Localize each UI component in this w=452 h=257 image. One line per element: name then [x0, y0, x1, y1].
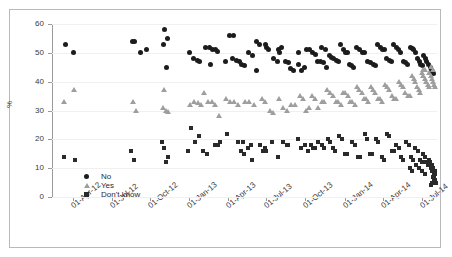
data-point — [420, 160, 424, 164]
legend-item-label: Yes — [101, 181, 114, 190]
data-point — [365, 137, 369, 141]
data-point — [417, 90, 423, 95]
data-point — [251, 102, 257, 107]
y-tick-label: 40 — [18, 78, 44, 86]
data-point — [162, 146, 166, 150]
data-point — [405, 62, 410, 67]
data-point — [292, 102, 298, 107]
data-point — [353, 143, 357, 147]
data-point — [258, 143, 262, 147]
data-point — [322, 146, 326, 150]
data-point — [73, 158, 77, 162]
data-point — [382, 158, 386, 162]
legend-item-label: No — [101, 172, 111, 181]
data-point — [71, 87, 77, 92]
data-point — [161, 42, 166, 47]
data-point — [242, 152, 246, 156]
data-point — [423, 172, 427, 176]
data-point — [410, 169, 414, 173]
data-point — [315, 105, 321, 110]
data-point — [132, 39, 137, 44]
data-point — [423, 155, 427, 159]
data-point — [323, 47, 328, 52]
data-point — [407, 143, 411, 147]
data-point — [242, 63, 247, 68]
data-point — [250, 53, 255, 58]
data-point — [412, 79, 418, 84]
data-point — [352, 102, 358, 107]
data-point — [338, 42, 343, 47]
data-point — [236, 140, 240, 144]
data-point — [275, 59, 280, 64]
data-point — [270, 110, 276, 115]
data-point — [286, 143, 290, 147]
data-point — [249, 143, 253, 147]
data-point — [401, 158, 405, 162]
data-point — [276, 96, 282, 101]
data-point — [286, 60, 291, 65]
data-point — [129, 149, 133, 153]
data-point — [250, 158, 254, 162]
data-point — [376, 140, 380, 144]
data-point — [430, 67, 436, 72]
y-tick-label: 20 — [18, 135, 44, 143]
data-point — [300, 96, 306, 101]
data-point — [223, 59, 228, 64]
data-point — [165, 36, 170, 41]
data-point — [393, 96, 399, 101]
data-point — [333, 149, 337, 153]
data-point — [306, 105, 312, 110]
square-marker-icon — [84, 192, 89, 197]
data-point — [411, 158, 415, 162]
data-point — [302, 65, 307, 70]
data-point — [235, 102, 241, 107]
data-point — [306, 149, 310, 153]
data-point — [270, 140, 274, 144]
data-point — [189, 126, 193, 130]
data-point — [133, 108, 139, 113]
legend-item-label: Don't know — [101, 190, 140, 199]
data-point — [138, 50, 143, 55]
data-point — [413, 50, 418, 55]
data-point — [63, 42, 68, 47]
data-point — [198, 102, 204, 107]
gridline-30 — [52, 111, 437, 112]
data-point — [276, 155, 280, 159]
data-point — [241, 140, 245, 144]
data-point — [431, 175, 435, 179]
triangle-marker-icon — [84, 183, 90, 188]
data-point — [429, 183, 433, 187]
data-point — [407, 93, 413, 98]
data-point — [303, 143, 307, 147]
data-point — [345, 50, 350, 55]
data-point — [262, 99, 268, 104]
data-point — [432, 84, 438, 89]
data-point — [266, 47, 271, 52]
data-point — [254, 68, 259, 73]
y-tick-label: 50 — [18, 49, 44, 57]
data-point — [313, 52, 318, 57]
data-point — [400, 84, 406, 89]
data-point — [387, 134, 391, 138]
gridline-50 — [52, 53, 437, 54]
data-point — [372, 90, 378, 95]
data-point — [358, 155, 362, 159]
data-point — [382, 47, 387, 52]
gridline-60 — [52, 24, 437, 25]
data-point — [197, 134, 201, 138]
chart-plot-wrapper: % 0102030405060 01-Apr-1201-Jul-1201-Oct… — [0, 0, 452, 257]
data-point — [389, 59, 394, 64]
data-point — [205, 152, 209, 156]
data-point — [313, 146, 317, 150]
y-tick-label: 10 — [18, 164, 44, 172]
data-point — [296, 62, 301, 67]
circle-marker-icon — [84, 174, 89, 179]
data-point — [359, 90, 365, 95]
y-tick-label: 0 — [18, 193, 44, 201]
data-point — [340, 137, 344, 141]
data-point — [362, 50, 367, 55]
data-point — [216, 113, 222, 118]
data-point — [392, 149, 396, 153]
data-point — [321, 99, 327, 104]
data-point — [160, 140, 164, 144]
